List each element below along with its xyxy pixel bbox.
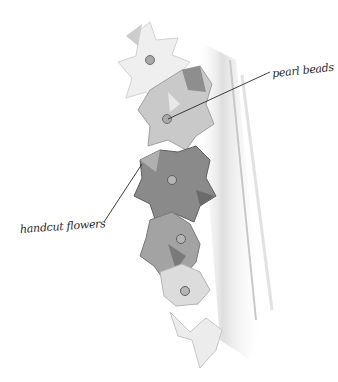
- pearl-bead-2: [163, 115, 172, 124]
- pearl-bead-4: [177, 235, 186, 244]
- pearl-bead-1: [146, 56, 155, 65]
- fashion-sketch: [0, 0, 338, 382]
- curled-petal: [170, 312, 222, 368]
- pearl-bead-5: [181, 287, 190, 296]
- pearl-bead-3: [168, 176, 177, 185]
- flower-5: [160, 264, 210, 306]
